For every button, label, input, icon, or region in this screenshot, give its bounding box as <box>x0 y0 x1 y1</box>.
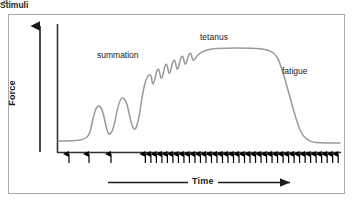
annotation-fatigue: fatigue <box>282 66 308 76</box>
stimuli-label: Stimuli <box>0 0 354 10</box>
y-axis-label: Force <box>7 73 17 113</box>
annotation-tetanus: tetanus <box>200 32 228 42</box>
panel-letter: a. <box>3 0 11 6</box>
figure-frame <box>8 14 345 194</box>
annotation-summation: summation <box>97 50 139 60</box>
figure-root: a. <box>0 0 354 203</box>
x-axis-label: Time <box>188 176 218 186</box>
